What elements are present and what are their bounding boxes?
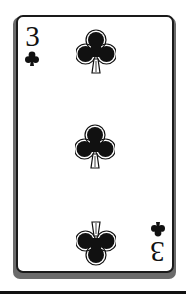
rank-label: 3 — [25, 23, 39, 49]
divider-line — [0, 291, 186, 294]
club-pip-icon — [76, 218, 116, 266]
club-icon — [25, 51, 39, 67]
rank-label: 3 — [151, 239, 165, 265]
corner-index-bottom-right: 3 — [148, 221, 168, 265]
corner-index-top-left: 3 — [22, 23, 42, 67]
club-icon — [151, 221, 165, 237]
club-pip-icon — [75, 124, 115, 172]
club-pip-icon — [76, 29, 116, 77]
playing-card: 3 3 — [16, 15, 174, 273]
